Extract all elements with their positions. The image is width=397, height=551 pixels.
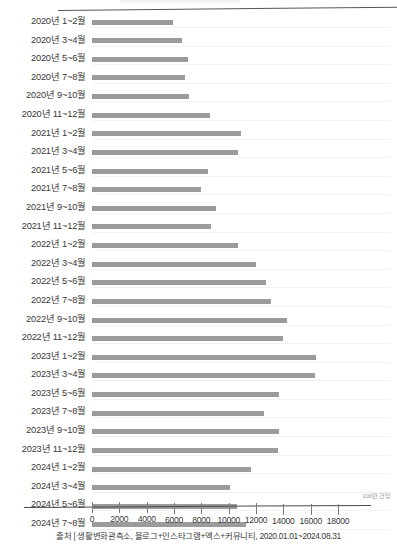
row-gridline	[92, 473, 391, 474]
bar-row: 2022년 11~12월	[0, 330, 397, 349]
value-bar	[92, 373, 315, 378]
category-label: 2023년 7~8월	[0, 405, 86, 418]
bar-row: 2021년 9~10월	[0, 200, 397, 219]
row-gridline	[92, 436, 391, 437]
value-bar	[92, 57, 188, 62]
row-gridline	[92, 213, 391, 214]
bar-row: 2020년 5~6월	[0, 51, 397, 70]
bar-row: 2021년 11~12월	[0, 219, 397, 238]
category-label: 2022년 9~10월	[0, 313, 86, 326]
cropped-title-remnant	[120, 0, 240, 6]
value-bar	[92, 485, 230, 490]
axis-tick-label: 6000	[165, 515, 183, 525]
value-bar	[92, 336, 283, 341]
value-bar	[92, 448, 278, 453]
axis-tick-label: 18000	[327, 516, 349, 526]
value-bar	[92, 280, 266, 285]
value-bar	[92, 243, 238, 248]
value-bar	[92, 94, 189, 99]
bar-row: 2024년 3~4월	[0, 479, 397, 498]
axis-tick-label: 2000	[110, 514, 128, 524]
bar-row: 2021년 1~2월	[0, 126, 397, 145]
value-bar	[92, 38, 182, 43]
row-gridline	[92, 101, 391, 102]
category-label: 2022년 1~2월	[0, 238, 86, 251]
bar-row: 2022년 5~6월	[0, 274, 397, 293]
bar-row: 2023년 1~2월	[0, 349, 397, 368]
category-label: 2024년 1~2월	[0, 461, 86, 474]
chart-container: 2020년 1~2월2020년 3~4월2020년 5~6월2020년 7~8월…	[0, 0, 397, 551]
row-gridline	[92, 455, 391, 456]
bar-rows-area: 2020년 1~2월2020년 3~4월2020년 5~6월2020년 7~8월…	[0, 14, 397, 494]
row-gridline	[92, 176, 391, 177]
category-label: 2021년 1~2월	[0, 127, 86, 140]
axis-tick	[229, 503, 230, 514]
axis-tick-label: 4000	[138, 514, 156, 524]
row-gridline	[92, 380, 391, 381]
row-gridline	[92, 417, 391, 418]
category-label: 2021년 7~8월	[0, 182, 86, 195]
bar-row: 2020년 7~8월	[0, 70, 397, 89]
category-label: 2020년 11~12월	[0, 108, 86, 121]
category-label: 2022년 7~8월	[0, 294, 86, 307]
axis-tick	[283, 504, 284, 515]
bar-row: 2023년 9~10월	[0, 423, 397, 442]
category-label: 2023년 3~4월	[0, 368, 86, 381]
value-bar	[92, 392, 279, 397]
axis-tick	[119, 502, 120, 513]
value-bar	[92, 299, 271, 304]
value-bar	[92, 75, 185, 80]
axis-tick	[338, 504, 339, 515]
row-gridline	[92, 157, 391, 158]
value-bar	[92, 411, 264, 416]
top-divider-rule	[58, 7, 397, 11]
value-bar	[92, 355, 316, 360]
bar-row: 2022년 9~10월	[0, 312, 397, 331]
value-bar	[92, 20, 173, 25]
value-bar	[92, 187, 201, 192]
category-label: 2023년 1~2월	[0, 350, 86, 363]
row-gridline	[92, 306, 391, 307]
category-label: 2020년 9~10월	[0, 89, 86, 102]
x-axis-line	[24, 505, 371, 508]
value-bar	[92, 169, 208, 174]
category-label: 2020년 1~2월	[0, 15, 86, 28]
source-caption: 출처 | 생활변화관측소, 블로그+인스타그램+엑스+커뮤니티, 2020.01…	[0, 529, 397, 541]
bar-row: 2022년 3~4월	[0, 256, 397, 275]
axis-tick	[92, 502, 93, 513]
category-label: 2020년 5~6월	[0, 52, 86, 65]
row-gridline	[92, 64, 391, 65]
category-label: 2020년 7~8월	[0, 71, 86, 84]
axis-tick-label: 12000	[245, 515, 267, 525]
row-gridline	[92, 399, 391, 400]
row-gridline	[92, 287, 391, 288]
bar-row: 2023년 3~4월	[0, 367, 397, 386]
row-gridline	[92, 194, 391, 195]
bar-row: 2023년 11~12월	[0, 442, 397, 461]
category-label: 2023년 11~12월	[0, 443, 86, 456]
x-axis: 0200040006000800010000120001400016000180…	[0, 501, 397, 551]
category-label: 2021년 5~6월	[0, 164, 86, 177]
value-bar	[92, 206, 216, 211]
bar-row: 2021년 5~6월	[0, 163, 397, 182]
axis-tick	[147, 502, 148, 513]
value-bar	[92, 467, 251, 472]
category-label: 2020년 3~4월	[0, 34, 86, 47]
row-gridline	[92, 250, 391, 251]
row-gridline	[92, 120, 391, 121]
axis-tick-label: 14000	[272, 516, 294, 526]
value-bar	[92, 224, 211, 229]
value-bar	[92, 318, 287, 323]
bar-row: 2020년 3~4월	[0, 33, 397, 52]
axis-tick	[311, 504, 312, 515]
bar-row: 2022년 7~8월	[0, 293, 397, 312]
value-bar	[92, 429, 279, 434]
bar-row: 2021년 3~4월	[0, 144, 397, 163]
row-gridline	[92, 46, 391, 47]
value-bar	[92, 262, 256, 267]
bar-row: 2022년 1~2월	[0, 237, 397, 256]
category-label: 2022년 3~4월	[0, 257, 86, 270]
row-gridline	[92, 269, 391, 270]
value-bar	[92, 150, 238, 155]
row-gridline	[92, 492, 391, 493]
